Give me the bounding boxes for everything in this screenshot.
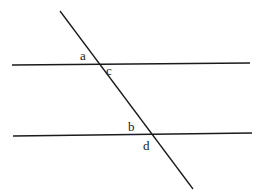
diagram-canvas: a c b d [0, 0, 257, 196]
diagram-svg: a c b d [0, 0, 257, 196]
transversal-line [60, 11, 193, 189]
angle-label-b: b [128, 119, 135, 134]
top-parallel-line [12, 63, 250, 65]
angle-label-d: d [143, 138, 150, 153]
angle-label-c: c [106, 63, 112, 78]
angle-label-a: a [80, 48, 86, 63]
